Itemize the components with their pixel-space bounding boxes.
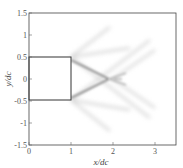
y-tick-label: -1 <box>20 119 27 128</box>
y-tick-label: 1.5 <box>17 9 27 18</box>
y-tick-label: 0.5 <box>17 53 27 62</box>
y-tick-label: 1 <box>23 31 27 40</box>
y-tick-label: -1.5 <box>14 141 27 150</box>
x-tick-label: 3 <box>153 147 157 156</box>
y-tick-label: 0 <box>23 75 27 84</box>
shock-field <box>71 27 155 131</box>
body-rectangle <box>29 57 71 100</box>
chart: 1.5 1 0.5 0 -0.5 -1 -1.5 0 1 2 3 x/dc y/… <box>0 0 183 168</box>
y-tick-label: -0.5 <box>14 97 27 106</box>
x-axis <box>29 142 155 145</box>
x-axis-label: x/dc <box>93 157 109 167</box>
x-tick-label: 2 <box>111 147 115 156</box>
x-tick-label: 1 <box>69 147 73 156</box>
x-tick-label: 0 <box>27 147 31 156</box>
y-axis <box>29 13 32 145</box>
y-axis-label: y/dc <box>3 72 13 88</box>
